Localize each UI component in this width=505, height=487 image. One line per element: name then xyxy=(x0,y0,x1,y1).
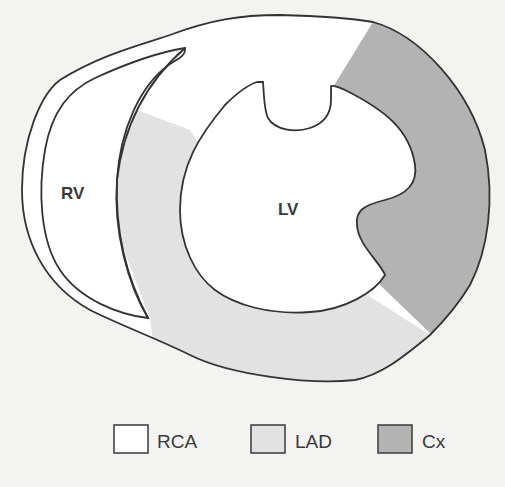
legend-item-rca: RCA xyxy=(114,425,197,453)
legend-label-rca: RCA xyxy=(157,431,197,452)
coronary-territory-diagram: RV LV RCA LAD Cx xyxy=(0,0,505,487)
legend-swatch-cx xyxy=(378,425,412,453)
legend-item-lad: LAD xyxy=(251,425,332,453)
legend-swatch-lad xyxy=(251,425,285,453)
rv-label: RV xyxy=(61,184,85,203)
lv-label: LV xyxy=(278,200,299,219)
legend-label-cx: Cx xyxy=(422,431,446,452)
legend-swatch-rca xyxy=(114,425,148,453)
legend: RCA LAD Cx xyxy=(114,425,446,453)
legend-label-lad: LAD xyxy=(295,431,332,452)
legend-item-cx: Cx xyxy=(378,425,446,453)
